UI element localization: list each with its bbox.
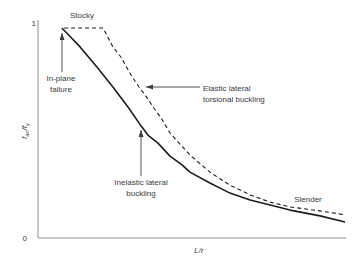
in-plane-failure-label-line2: failure bbox=[50, 85, 72, 94]
y-tick-1: 1 bbox=[32, 19, 37, 28]
chart-canvas: 1 0 Stocky In-plane failure Elastic late… bbox=[0, 0, 364, 260]
in-plane-failure-label-line1: In-plane bbox=[47, 74, 76, 83]
elastic-ltb-label-line1: Elastic lateral bbox=[203, 84, 251, 93]
stocky-label: Stocky bbox=[70, 11, 94, 20]
elastic-ltb-label-line2: torsional buckling bbox=[203, 95, 265, 104]
y-axis-label-sub2: y bbox=[24, 122, 30, 127]
y-tick-0: 0 bbox=[23, 234, 28, 243]
inelastic-lateral-buckling-curve bbox=[62, 28, 345, 222]
inelastic-ltb-label-line1: Inelastic lateral bbox=[114, 178, 168, 187]
inelastic-ltb-label-line2: buckling bbox=[126, 189, 155, 198]
slender-label: Slender bbox=[294, 195, 322, 204]
elastic-lateral-torsional-buckling-curve bbox=[64, 28, 345, 215]
y-axis-label: fac/fy bbox=[20, 122, 30, 139]
x-axis-label: L/r bbox=[194, 246, 204, 255]
lateral-torsional-buckling-chart: 1 0 Stocky In-plane failure Elastic late… bbox=[0, 0, 364, 260]
